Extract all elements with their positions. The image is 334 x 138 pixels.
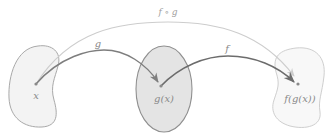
label-fgx: f(g(x)) [283, 93, 315, 104]
point-gx [159, 84, 162, 87]
point-fgx [296, 82, 299, 85]
label-gx: g(x) [154, 93, 174, 104]
point-x [34, 82, 37, 85]
intermediate-set [136, 46, 192, 132]
label-arrow-f: f [224, 43, 231, 54]
codomain-set [273, 48, 324, 128]
label-arrow-f-compose-g: f ∘ g [157, 7, 177, 17]
composition-diagram: x g(x) f(g(x)) g f f ∘ g [0, 0, 334, 138]
label-x: x [33, 90, 39, 101]
label-arrow-g: g [95, 38, 101, 49]
domain-set [9, 46, 59, 127]
